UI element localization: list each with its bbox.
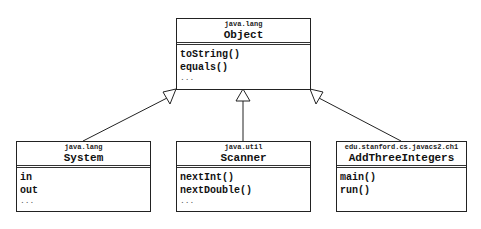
class-name: System (17, 152, 150, 165)
member: nextInt() (180, 171, 310, 184)
class-addthreeintegers: edu.stanford.cs.javacs2.ch1 AddThreeInte… (336, 141, 467, 212)
generalization-arrow-icon (236, 89, 250, 101)
class-members: main() run() (337, 168, 466, 197)
class-members: nextInt() nextDouble() ... (177, 168, 310, 205)
class-scanner: java.util Scanner nextInt() nextDouble()… (176, 141, 311, 212)
generalization-arrow-icon (310, 89, 323, 104)
member: nextDouble() (180, 184, 310, 197)
member: equals() (180, 61, 310, 74)
class-name: Scanner (177, 152, 310, 165)
class-header: java.lang Object (177, 19, 310, 45)
link-system-object (83, 97, 169, 141)
member: out (20, 184, 150, 197)
class-header: edu.stanford.cs.javacs2.ch1 AddThreeInte… (337, 142, 466, 168)
class-name: Object (177, 29, 310, 42)
class-object: java.lang Object toString() equals() ... (176, 18, 311, 90)
package-name: java.util (177, 143, 310, 152)
package-name: java.lang (17, 143, 150, 152)
class-name: AddThreeIntegers (337, 152, 466, 165)
member: in (20, 171, 150, 184)
ellipsis: ... (180, 197, 310, 205)
generalization-arrow-icon (163, 89, 176, 104)
link-addthreeintegers-object (317, 97, 401, 141)
class-members: toString() equals() ... (177, 45, 310, 82)
class-members: in out ... (17, 168, 150, 205)
class-header: java.lang System (17, 142, 150, 168)
class-system: java.lang System in out ... (16, 141, 151, 212)
package-name: edu.stanford.cs.javacs2.ch1 (337, 143, 466, 152)
member: main() (340, 171, 466, 184)
class-header: java.util Scanner (177, 142, 310, 168)
ellipsis: ... (20, 197, 150, 205)
member: run() (340, 184, 466, 197)
member: toString() (180, 48, 310, 61)
ellipsis: ... (180, 74, 310, 82)
package-name: java.lang (177, 20, 310, 29)
